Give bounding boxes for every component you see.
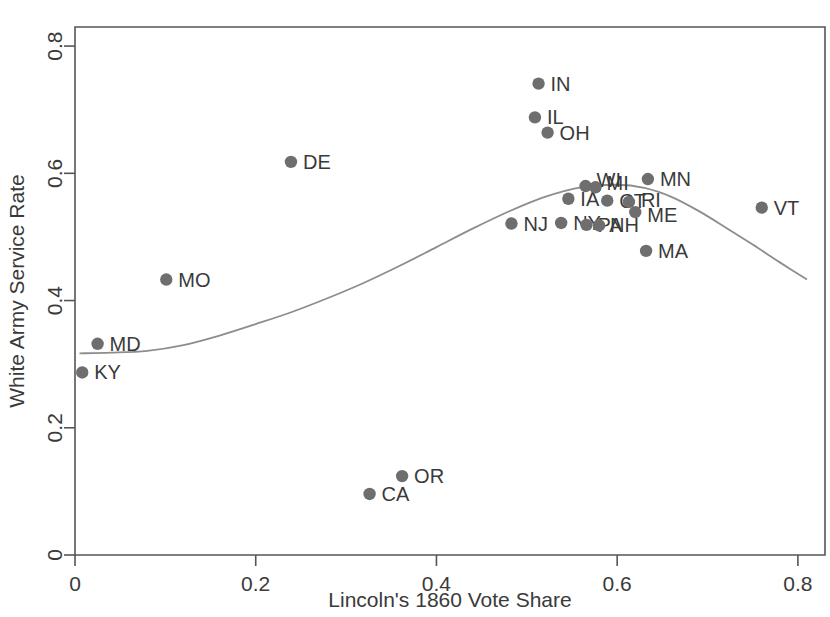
x-axis-title: Lincoln's 1860 Vote Share: [328, 588, 571, 611]
point-marker: [532, 77, 544, 89]
point-label: MN: [660, 168, 691, 190]
point-label: DE: [303, 151, 331, 173]
point-marker: [396, 470, 408, 482]
point-marker: [640, 245, 652, 257]
point-marker: [629, 206, 641, 218]
point-marker: [642, 173, 654, 185]
point-marker: [756, 201, 768, 213]
point-label: OH: [560, 122, 590, 144]
point-marker: [593, 219, 605, 231]
point-label: IN: [551, 73, 571, 95]
y-tick-label: 0.6: [43, 159, 66, 188]
data-point[interactable]: NJ: [505, 213, 548, 235]
y-tick-label: 0: [43, 549, 66, 561]
point-label: VT: [774, 197, 800, 219]
point-marker: [505, 217, 517, 229]
point-marker: [363, 488, 375, 500]
point-label: ME: [647, 204, 677, 226]
point-label: MD: [110, 333, 141, 355]
data-point[interactable]: CA: [363, 483, 410, 505]
point-label: KY: [94, 361, 121, 383]
scatter-plot-figure: 00.20.40.60.800.20.40.60.8Lincoln's 1860…: [0, 0, 830, 617]
point-label: CA: [382, 483, 410, 505]
point-marker: [285, 156, 297, 168]
point-marker: [541, 126, 553, 138]
point-marker: [562, 193, 574, 205]
point-label: MO: [178, 269, 210, 291]
point-label: OR: [414, 465, 444, 487]
data-point[interactable]: IL: [529, 106, 564, 128]
data-point[interactable]: MA: [640, 240, 689, 262]
data-points-group: KYMDMODECAORNJINILOHIANYWIMIPANHCTRIMEMN…: [76, 73, 799, 505]
point-marker: [160, 273, 172, 285]
data-point[interactable]: MN: [642, 168, 691, 190]
data-point[interactable]: DE: [285, 151, 331, 173]
x-tick-label: 0.8: [783, 572, 812, 595]
y-tick-label: 0.4: [43, 286, 66, 316]
point-marker: [589, 181, 601, 193]
data-point[interactable]: IN: [532, 73, 570, 95]
y-tick-label: 0.2: [43, 413, 66, 442]
point-marker: [555, 217, 567, 229]
point-marker: [529, 111, 541, 123]
x-tick-label: 0.2: [241, 572, 270, 595]
y-axis-title: White Army Service Rate: [5, 174, 28, 407]
point-marker: [76, 366, 88, 378]
data-point[interactable]: KY: [76, 361, 121, 383]
data-point[interactable]: MO: [160, 269, 210, 291]
point-label: MA: [658, 240, 689, 262]
x-tick-label: 0.6: [603, 572, 632, 595]
x-tick-label: 0: [69, 572, 81, 595]
plot-frame: [75, 27, 825, 555]
data-point[interactable]: MD: [91, 333, 140, 355]
point-marker: [580, 219, 592, 231]
plot-canvas: 00.20.40.60.800.20.40.60.8Lincoln's 1860…: [0, 0, 830, 617]
data-point[interactable]: VT: [756, 197, 800, 219]
point-marker: [601, 194, 613, 206]
y-tick-label: 0.8: [43, 31, 66, 60]
y-axis: 00.20.40.60.8: [43, 31, 75, 560]
point-marker: [91, 338, 103, 350]
point-label: NJ: [523, 213, 547, 235]
